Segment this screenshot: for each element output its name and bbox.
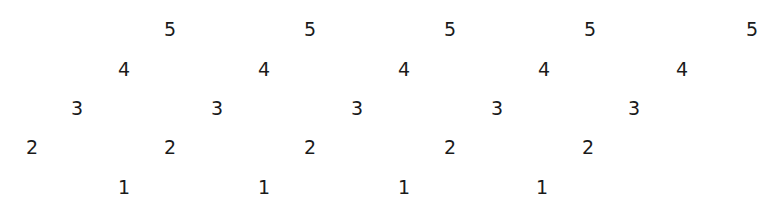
digit-1: 1 <box>118 178 130 197</box>
digit-5: 5 <box>444 20 456 39</box>
digit-2: 2 <box>304 138 316 157</box>
digit-5: 5 <box>304 20 316 39</box>
digit-2: 2 <box>444 138 456 157</box>
digit-4: 4 <box>118 60 130 79</box>
digit-1: 1 <box>398 178 410 197</box>
digit-3: 3 <box>491 99 503 118</box>
digit-4: 4 <box>258 60 270 79</box>
digit-5: 5 <box>584 20 596 39</box>
digit-3: 3 <box>628 99 640 118</box>
digit-4: 4 <box>676 60 688 79</box>
digit-1: 1 <box>536 178 548 197</box>
digit-2: 2 <box>582 138 594 157</box>
digit-4: 4 <box>398 60 410 79</box>
digit-5: 5 <box>164 20 176 39</box>
digit-3: 3 <box>71 99 83 118</box>
digit-5: 5 <box>746 20 758 39</box>
digit-2: 2 <box>164 138 176 157</box>
digit-2: 2 <box>26 138 38 157</box>
digit-4: 4 <box>538 60 550 79</box>
digit-1: 1 <box>258 178 270 197</box>
digit-3: 3 <box>351 99 363 118</box>
digit-3: 3 <box>211 99 223 118</box>
